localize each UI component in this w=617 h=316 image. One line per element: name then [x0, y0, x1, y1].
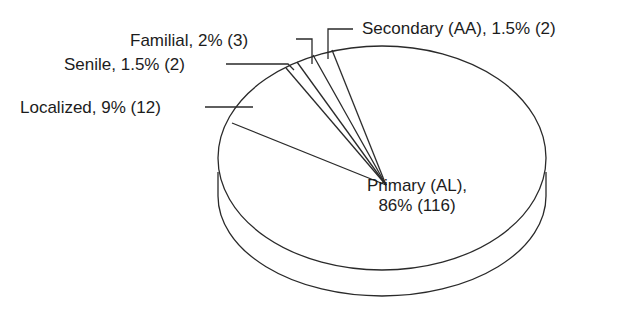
label-primary-line2: 86% (116) — [337, 196, 497, 216]
label-secondary: Secondary (AA), 1.5% (2) — [362, 19, 556, 39]
label-localized: Localized, 9% (12) — [20, 98, 161, 118]
label-familial: Familial, 2% (3) — [130, 31, 248, 51]
pie-top-face — [218, 46, 546, 270]
pie-chart — [0, 0, 617, 316]
label-primary-line1: Primary (AL), — [337, 176, 497, 196]
label-senile: Senile, 1.5% (2) — [64, 55, 185, 75]
label-primary: Primary (AL), 86% (116) — [337, 176, 497, 216]
